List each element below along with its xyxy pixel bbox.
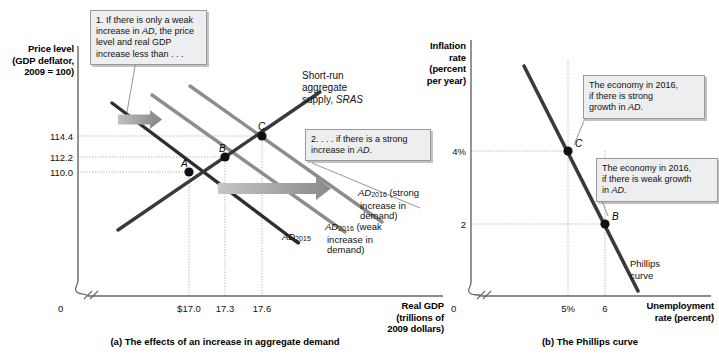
- economics-figure: Price level (GDP deflator, 2009 = 100) 1…: [0, 0, 719, 361]
- panel-b-point-label-c: C: [575, 138, 582, 149]
- panel-b-x-axis-title: Unemployment rate (percent): [620, 300, 714, 323]
- panel-a-xtick-17-6: 17.6: [245, 303, 279, 314]
- phillips-curve-label: Phillips curve: [630, 258, 684, 282]
- callout-economy-weak-growth: The economy in 2016, if there is weak gr…: [596, 158, 718, 202]
- callout-weak-increase: 1. If there is only a weak increase in A…: [90, 10, 207, 65]
- callout-strong-increase: 2. . . . if there is a strong increase i…: [305, 129, 431, 161]
- panel-a-origin-label: 0: [58, 303, 63, 314]
- panel-a-ytick-114: 114.4: [28, 131, 73, 142]
- panel-a-point-label-b: B: [219, 143, 226, 154]
- panel-a-point-label-a: A: [181, 158, 188, 169]
- callout-economy-strong-growth: The economy in 2016, if there is strong …: [583, 75, 705, 119]
- ad2015-curve-label: AD2015: [282, 232, 311, 245]
- panel-a-x-axis-title: Real GDP (trillions of 2009 dollars): [352, 300, 444, 335]
- panel-b-point-label-b: B: [612, 211, 619, 222]
- ad2016-weak-curve-label: AD2016 (weak increase in demand): [325, 222, 400, 256]
- panel-a-ytick-112: 112.2: [28, 152, 73, 163]
- panel-a-xtick-17-0: $17.0: [168, 303, 210, 314]
- panel-a-xtick-17-3: 17.3: [208, 303, 242, 314]
- panel-b-caption: (b) The Phillips curve: [470, 336, 710, 347]
- panel-a-point-label-c: C: [258, 121, 265, 132]
- panel-a-gridlines: [78, 136, 263, 296]
- curve-sras: [118, 92, 320, 230]
- panel-a-ytick-110: 110.0: [28, 167, 73, 178]
- panel-a-y-axis-title: Price level (GDP deflator, 2009 = 100): [0, 43, 74, 78]
- panel-a-caption: (a) The effects of an increase in aggreg…: [80, 336, 370, 347]
- ad2016-strong-curve-label: AD2016 (strong increase in demand): [358, 188, 436, 222]
- panel-b-xtick-6: 6: [592, 303, 618, 314]
- panel-b-xtick-5: 5%: [552, 303, 584, 314]
- sras-italic: SRAS: [336, 94, 363, 105]
- panel-b-y-axis-title: Inflation rate (percent per year): [400, 40, 466, 86]
- panel-b-origin-label: 0: [451, 303, 456, 314]
- panel-b-ytick-4: 4%: [425, 146, 466, 157]
- panel-b-ytick-2: 2: [425, 219, 466, 230]
